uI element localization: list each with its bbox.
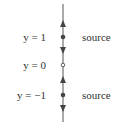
equilibrium-filled-dot bbox=[61, 93, 66, 98]
equilibrium-filled-dot bbox=[61, 35, 66, 40]
classification-label-ym1: source bbox=[82, 89, 111, 101]
classification-label-y1: source bbox=[82, 31, 111, 43]
equilibrium-label-y0: y = 0 bbox=[23, 59, 46, 71]
equilibrium-label-ym1: y = −1 bbox=[17, 89, 46, 101]
arrow-up-icon bbox=[60, 76, 66, 83]
equilibrium-label-y1: y = 1 bbox=[23, 31, 46, 43]
equilibrium-open-dot bbox=[61, 63, 65, 67]
arrow-down-icon bbox=[60, 47, 66, 54]
arrow-down-icon bbox=[60, 105, 66, 112]
phase-line bbox=[0, 0, 123, 124]
arrow-up-icon bbox=[60, 20, 66, 27]
